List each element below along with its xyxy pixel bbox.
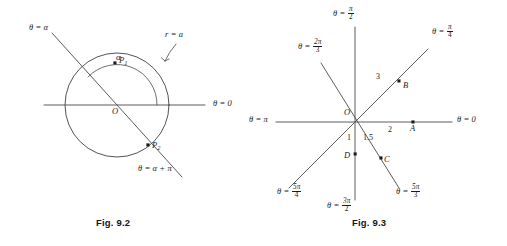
fraction-5pi-4: 5π4 (292, 184, 301, 200)
fig93-label-point-d: D (344, 151, 350, 160)
fig92-label-theta-alpha-plus-pi: θ = α + π (138, 164, 172, 173)
fraction-3pi-2: 3π2 (342, 198, 351, 214)
fig93-label-point-c: C (384, 155, 390, 164)
fig93-label-theta-5pi-3: θ = 5π3 (396, 184, 421, 200)
fraction-2pi-3: 2π3 (313, 39, 322, 55)
fraction-5pi-3: 5π3 (411, 184, 420, 200)
fig92-caption: Fig. 9.2 (96, 217, 130, 228)
fig92-label-r-equals-a: r = a (165, 30, 183, 39)
fig92-radius-leader (165, 44, 176, 61)
fig92-label-p1: P1 (119, 56, 128, 66)
fig93-label-point-b: B (403, 81, 408, 90)
fig93-caption: Fig. 9.3 (352, 217, 386, 228)
fig93-label-origin: O (344, 108, 350, 117)
fig92-point-p2-marker (146, 143, 149, 146)
fig93-radius-mark-2: 2 (388, 125, 392, 134)
fig93-point-c-marker (379, 156, 382, 159)
fig93-label-point-a: A (410, 124, 415, 133)
fraction-pi-2: π2 (348, 6, 354, 22)
fig93-radius-mark-1: 1 (347, 133, 351, 142)
fraction-pi-4: π4 (447, 24, 453, 40)
fig93-label-theta-3pi-2: θ = 3π2 (327, 198, 352, 214)
fig93-ray-theta-pi4-5pi4 (289, 49, 428, 188)
fig93-point-b-marker (397, 79, 400, 82)
fig92-label-theta-alpha: θ = α (29, 23, 48, 32)
fig93-point-d-marker (354, 152, 357, 155)
fig93-label-theta-2pi-3: θ = 2π3 (298, 39, 323, 55)
fig92-radius-leader-arrow (161, 58, 169, 61)
fig92-label-theta-zero: θ = 0 (213, 99, 232, 108)
fig92-label-p2: P2 (152, 141, 161, 151)
fig93-label-theta-5pi-4: θ = 5π4 (277, 184, 302, 200)
fig93-label-theta-pi: θ = π (249, 115, 268, 124)
figure-sheet: θ = α θ = α + π θ = 0 r = a α P1 P2 O Fi… (0, 0, 507, 246)
fig93-radius-mark-3: 3 (376, 72, 380, 81)
fig93-label-theta-0: θ = 0 (457, 115, 476, 124)
fig93-label-theta-pi-4: θ = π4 (432, 24, 453, 40)
fig92-label-origin: O (112, 107, 118, 116)
fig93-label-theta-pi-2: θ = π2 (333, 6, 354, 22)
fig93-radius-mark-1-5: 1.5 (363, 133, 373, 142)
